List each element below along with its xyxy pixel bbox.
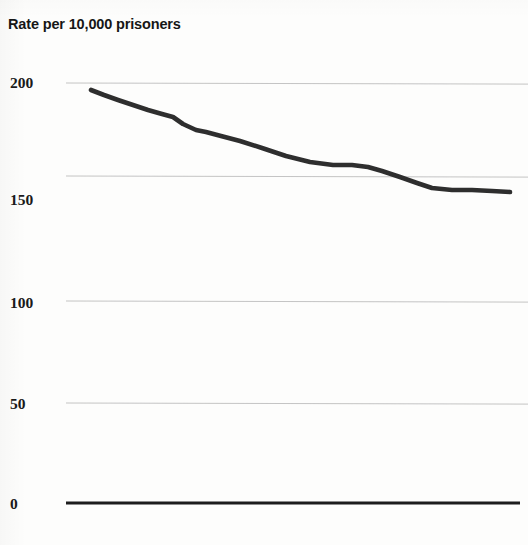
gridline-group xyxy=(66,83,528,503)
y-axis-tick-label: 200 xyxy=(10,75,33,91)
y-axis-tick-label: 0 xyxy=(10,496,18,512)
gridline xyxy=(66,176,528,177)
y-axis-tick-label: 100 xyxy=(10,295,33,311)
gridline xyxy=(66,403,528,404)
chart-container: Rate per 10,000 prisoners 200150100500 xyxy=(0,0,528,545)
gridline xyxy=(66,301,528,302)
line-chart-plot xyxy=(0,0,528,545)
gridline xyxy=(66,83,528,84)
y-axis-tick-label: 50 xyxy=(10,396,26,412)
y-axis-tick-label: 150 xyxy=(10,192,33,208)
